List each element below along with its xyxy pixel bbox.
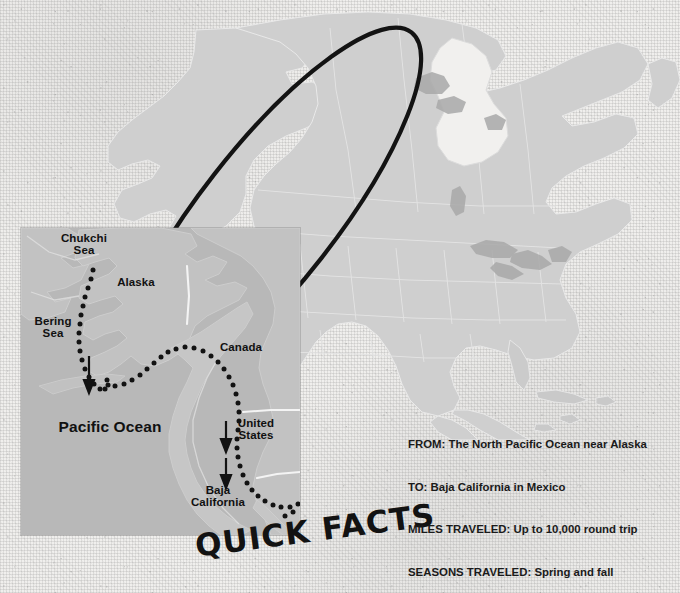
inset-label-bering-sea: BeringSea	[27, 315, 79, 339]
fact-label: SEASONS TRAVELED:	[408, 566, 531, 578]
quick-facts-list: FROM: The North Pacific Ocean near Alask…	[408, 438, 674, 580]
inset-label-chukchi-sea: ChukchiSea	[55, 232, 113, 256]
inset-label-pacific-ocean: Pacific Ocean	[45, 419, 175, 435]
fact-label: MILES TRAVELED:	[408, 523, 510, 535]
inset-label-alaska: Alaska	[111, 276, 161, 288]
fact-row-to: TO: Baja California in Mexico	[408, 481, 674, 495]
fact-label: TO:	[408, 481, 427, 493]
inset-label-united-states: UnitedStates	[230, 417, 282, 441]
fact-value: Spring and fall	[534, 566, 613, 578]
fact-row-seasons-traveled: SEASONS TRAVELED: Spring and fall	[408, 566, 674, 580]
fact-value: Baja California in Mexico	[431, 481, 566, 493]
inset-label-canada: Canada	[213, 341, 269, 353]
fact-row-from: FROM: The North Pacific Ocean near Alask…	[408, 438, 674, 452]
fact-value: The North Pacific Ocean near Alaska	[449, 438, 647, 450]
fact-row-miles-traveled: MILES TRAVELED: Up to 10,000 round trip	[408, 523, 674, 537]
migration-route-inset	[21, 228, 300, 535]
inset-label-baja-california: BajaCalifornia	[183, 484, 253, 508]
fact-label: FROM:	[408, 438, 445, 450]
fact-value: Up to 10,000 round trip	[513, 523, 637, 535]
